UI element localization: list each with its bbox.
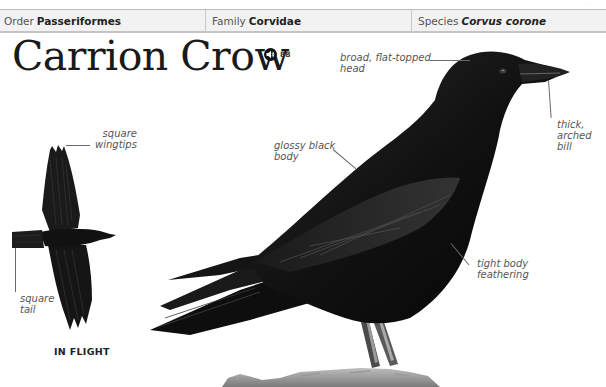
annotation-bill: thick, arched bill [557,119,592,152]
rock-perch [222,368,440,387]
annotation-bill-line2: arched [557,130,592,141]
leader-line-tail [15,248,16,292]
crow-legs [360,316,398,368]
annotation-bill-line3: bill [557,141,592,152]
annotation-feathering: tight body feathering [477,258,529,280]
leader-line-wingtips [66,145,90,146]
annotation-tail: square tail [20,293,54,315]
annotation-body-line2: body [274,151,335,162]
in-flight-label: IN FLIGHT [54,346,110,357]
annotation-body-line1: glossy black [274,140,335,151]
annotation-wingtips: square wingtips [95,128,137,150]
annotation-head-line2: head [340,63,431,74]
leader-line-head [430,60,470,61]
annotation-head-line1: broad, flat-topped [340,52,431,63]
crow-illustration [0,0,606,387]
annotation-wingtips-line2: wingtips [95,139,137,150]
annotation-head: broad, flat-topped head [340,52,431,74]
annotation-bill-line1: thick, [557,119,592,130]
annotation-tail-line2: tail [20,304,54,315]
annotation-body: glossy black body [274,140,335,162]
annotation-wingtips-line1: square [95,128,137,139]
annotation-feathering-line1: tight body [477,258,529,269]
annotation-feathering-line2: feathering [477,269,529,280]
annotation-tail-line1: square [20,293,54,304]
